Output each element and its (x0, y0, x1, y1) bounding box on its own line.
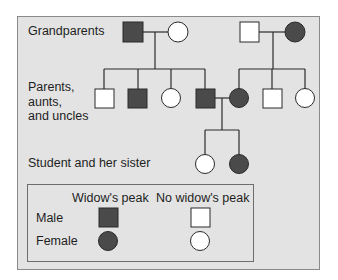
legend-male-unaffected-square (191, 208, 210, 227)
legend-female-unaffected-circle (191, 232, 210, 251)
legend-symbols (0, 0, 338, 280)
legend-male-affected-square (99, 208, 118, 227)
legend-female-affected-circle (99, 232, 118, 251)
